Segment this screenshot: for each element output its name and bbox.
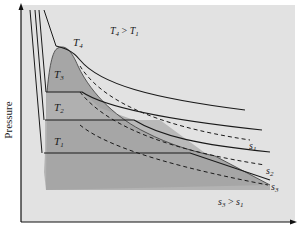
- y-axis-label: Pressure: [2, 101, 14, 138]
- pv-diagram: Pressure T4 T3 T2 T1 T4 > T1 s1 s2 s3 s3…: [0, 0, 297, 229]
